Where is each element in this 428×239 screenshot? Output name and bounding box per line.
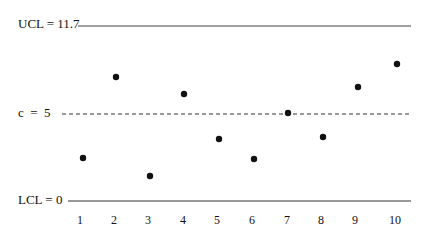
x-tick-label: 5 xyxy=(214,214,220,226)
data-point xyxy=(394,61,400,67)
x-tick-label: 8 xyxy=(318,214,324,226)
x-tick-label: 10 xyxy=(389,214,401,226)
data-point xyxy=(216,136,222,142)
data-point xyxy=(181,91,187,97)
data-point xyxy=(251,156,257,162)
x-tick-label: 7 xyxy=(284,214,290,226)
data-points xyxy=(80,61,400,179)
x-tick-label: 1 xyxy=(77,214,83,226)
x-tick-label: 4 xyxy=(180,214,186,226)
data-point xyxy=(147,173,153,179)
x-tick-label: 3 xyxy=(145,214,151,226)
data-point xyxy=(355,84,361,90)
data-point xyxy=(113,74,119,80)
ucl-label: UCL = 11.7 xyxy=(18,17,80,31)
x-tick-label: 9 xyxy=(352,214,358,226)
center-label: c = 5 xyxy=(18,106,51,120)
data-point xyxy=(320,134,326,140)
x-tick-label: 6 xyxy=(249,214,255,226)
x-tick-label: 2 xyxy=(111,214,117,226)
data-point xyxy=(80,155,86,161)
data-point xyxy=(285,110,291,116)
lcl-label: LCL = 0 xyxy=(18,193,62,207)
control-chart xyxy=(0,0,428,239)
